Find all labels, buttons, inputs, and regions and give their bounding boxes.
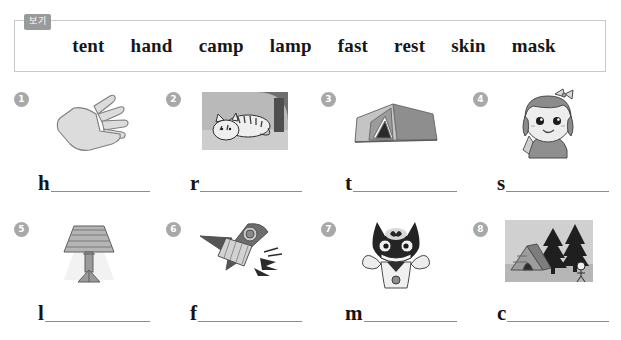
fast-rocket-illustration [186,218,296,290]
word-bank-word-list: tent hand camp lamp fast rest skin mask [14,20,606,72]
answer-line[interactable] [353,191,457,193]
hand-illustration [34,88,144,160]
question-item-4: 4 [465,86,620,196]
word-bank-word[interactable]: camp [199,35,244,57]
answer-line[interactable] [506,191,609,193]
item-number-badge: 3 [321,92,336,107]
question-item-7: 7 m [313,216,468,326]
word-bank-word[interactable]: hand [131,35,173,57]
question-row-1: 1 h 2 [0,86,621,196]
word-bank-tag: 보기 [24,14,51,30]
word-bank-word[interactable]: fast [338,35,368,57]
word-bank-word[interactable]: mask [512,35,556,57]
answer-blank-7[interactable]: m [345,303,457,324]
answer-line[interactable] [51,191,150,193]
item-number-badge: 2 [166,92,181,107]
answer-blank-8[interactable]: c [497,303,609,324]
answer-first-letter: s [497,173,506,194]
answer-line[interactable] [507,321,609,323]
question-item-2: 2 [158,86,313,196]
item-number-badge: 1 [14,92,29,107]
answer-blank-5[interactable]: l [38,303,150,324]
girl-skin-illustration [493,88,603,160]
answer-blank-2[interactable]: r [190,173,302,194]
campsite-photo [493,218,603,290]
word-bank-word[interactable]: tent [72,35,104,57]
item-number-badge: 6 [166,222,181,237]
item-number-badge: 7 [321,222,336,237]
question-row-2: 5 l 6 [0,216,621,326]
item-number-badge: 8 [473,222,488,237]
question-item-5: 5 l [6,216,161,326]
answer-first-letter: h [38,173,51,194]
question-item-8: 8 [465,216,620,326]
word-bank-word[interactable]: lamp [270,35,312,57]
word-bank: 보기 tent hand camp lamp fast rest skin ma… [14,14,606,72]
question-item-1: 1 h [6,86,161,196]
answer-first-letter: t [345,173,353,194]
lamp-illustration [34,218,144,290]
answer-blank-4[interactable]: s [497,173,609,194]
answer-line[interactable] [200,191,302,193]
question-item-3: 3 t [313,86,468,196]
resting-cat-photo [186,88,296,160]
tent-illustration [341,88,451,160]
item-number-badge: 4 [473,92,488,107]
answer-first-letter: r [190,173,200,194]
answer-first-letter: f [190,303,198,324]
answer-first-letter: l [38,303,45,324]
word-bank-word[interactable]: skin [451,35,486,57]
answer-blank-6[interactable]: f [190,303,302,324]
word-bank-word[interactable]: rest [394,35,425,57]
answer-line[interactable] [198,321,302,323]
question-item-6: 6 [158,216,313,326]
answer-blank-1[interactable]: h [38,173,150,194]
answer-first-letter: m [345,303,364,324]
answer-line[interactable] [45,321,150,323]
item-number-badge: 5 [14,222,29,237]
answer-first-letter: c [497,303,507,324]
answer-line[interactable] [364,321,458,323]
answer-blank-3[interactable]: t [345,173,457,194]
child-wearing-mask-illustration [341,218,451,290]
